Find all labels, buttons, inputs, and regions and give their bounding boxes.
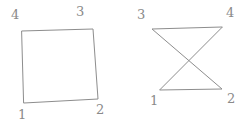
- geometry-drawing: [0, 0, 248, 126]
- left-quadrilateral-outline: [22, 29, 98, 103]
- left-vertex-label-3: 3: [76, 5, 84, 18]
- right-crossed-quadrilateral-outline: [152, 27, 222, 90]
- left-vertex-label-2: 2: [96, 103, 104, 116]
- figure-canvas: 1 2 3 4 1 2 3 4: [0, 0, 248, 126]
- right-vertex-label-4: 4: [226, 6, 234, 19]
- right-vertex-label-1: 1: [150, 94, 158, 107]
- right-vertex-label-3: 3: [137, 8, 145, 21]
- left-vertex-label-4: 4: [11, 8, 19, 21]
- left-vertex-label-1: 1: [18, 108, 26, 121]
- right-vertex-label-2: 2: [227, 92, 235, 105]
